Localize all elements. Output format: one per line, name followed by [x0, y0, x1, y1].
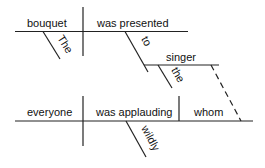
main-verb: was presented — [96, 17, 169, 29]
verb-modifier: wildly — [139, 122, 163, 153]
object-modifier: the — [169, 65, 187, 84]
main-subject: bouquet — [27, 17, 67, 29]
preposition: to — [139, 34, 154, 48]
subject-modifier: The — [55, 33, 75, 55]
relative-verb: was applauding — [95, 106, 172, 118]
subject-modifier-line — [43, 32, 60, 60]
sentence-diagram: bouquet was presented The to singer the … — [0, 0, 265, 168]
object-modifier-line — [158, 65, 172, 88]
prep-object: singer — [166, 51, 196, 63]
relative-subject: everyone — [27, 106, 72, 118]
relative-object: whom — [193, 106, 223, 118]
